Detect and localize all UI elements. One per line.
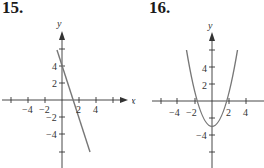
svg-text:−4: −4 <box>196 130 207 141</box>
svg-text:−2: −2 <box>186 107 197 118</box>
svg-text:4: 4 <box>243 107 248 118</box>
svg-text:−2: −2 <box>46 112 57 123</box>
svg-text:−4: −4 <box>22 104 33 115</box>
chart-16: 16. x y −4 −2 2 4 4 2 −4 <box>132 0 264 168</box>
y-axis-arrow-icon <box>59 31 65 40</box>
chart-15: 15. y −4 −2 2 4 4 2 −2 −4 <box>0 0 132 168</box>
svg-text:−4: −4 <box>46 129 57 140</box>
x-axis-arrow-icon <box>120 97 128 103</box>
svg-text:2: 2 <box>52 78 57 89</box>
plot-16: x y −4 −2 2 4 4 2 −4 <box>132 0 264 168</box>
svg-text:4: 4 <box>52 61 57 72</box>
svg-text:−4: −4 <box>169 107 180 118</box>
svg-text:4: 4 <box>93 104 98 115</box>
plot-15: y −4 −2 2 4 4 2 −2 −4 <box>0 0 132 168</box>
svg-text:2: 2 <box>226 107 231 118</box>
svg-text:4: 4 <box>202 63 207 74</box>
svg-text:2: 2 <box>202 80 207 91</box>
y-axis-arrow-icon <box>209 32 215 41</box>
svg-text:y: y <box>207 20 213 31</box>
svg-text:x: x <box>132 95 136 106</box>
svg-text:y: y <box>56 18 62 29</box>
svg-text:2: 2 <box>76 104 81 115</box>
